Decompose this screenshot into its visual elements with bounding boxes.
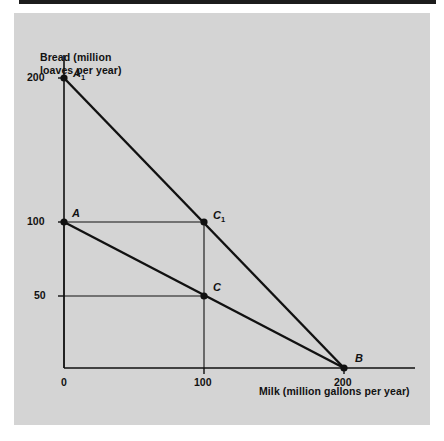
top-rule-divider — [19, 0, 436, 4]
point-label-c1-subscript: 1 — [221, 215, 225, 224]
point-label-a1: A1 — [73, 67, 85, 82]
data-point-c — [200, 292, 207, 299]
y-tick-label-100: 100 — [27, 215, 45, 227]
y-tick-label-200: 200 — [27, 71, 45, 83]
x-tick-label-0: 0 — [61, 376, 67, 388]
x-tick-label-200: 200 — [334, 376, 352, 388]
figure-panel: Bread (million loaves per year) Milk (mi… — [14, 13, 430, 425]
y-tick-label-50: 50 — [34, 289, 46, 301]
point-label-a1-text: A — [73, 67, 81, 79]
data-point-c1 — [200, 218, 207, 225]
point-label-a: A — [72, 207, 80, 219]
point-label-c1: C1 — [213, 209, 225, 224]
point-label-c1-text: C — [213, 209, 221, 221]
data-point-b — [340, 364, 347, 371]
point-label-b: B — [355, 352, 363, 364]
point-label-a1-subscript: 1 — [81, 73, 85, 82]
point-label-c: C — [213, 281, 221, 293]
x-tick-label-100: 100 — [194, 376, 212, 388]
data-point-a — [60, 218, 67, 225]
